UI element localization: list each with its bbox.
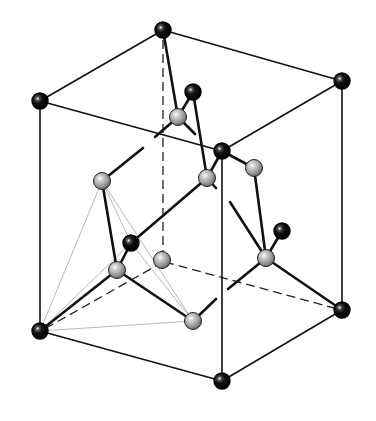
interior-atom bbox=[199, 170, 216, 187]
face-center-atom bbox=[123, 235, 139, 251]
face-center-atom bbox=[185, 84, 201, 100]
corner-atom bbox=[32, 323, 48, 339]
interior-atom bbox=[170, 109, 187, 126]
interior-atom bbox=[109, 262, 126, 279]
hidden-edges bbox=[48, 40, 334, 327]
interior-atom bbox=[94, 173, 111, 190]
interior-atom bbox=[246, 160, 263, 177]
corner-atom bbox=[32, 93, 48, 109]
interior-atom bbox=[185, 313, 202, 330]
interior-atoms bbox=[94, 109, 275, 330]
face-center-atom bbox=[274, 223, 290, 239]
corner-atom bbox=[214, 373, 230, 389]
corner-atom bbox=[214, 143, 230, 159]
interior-atom bbox=[154, 252, 171, 269]
corner-atom bbox=[155, 22, 171, 38]
diamond-cubic-unit-cell bbox=[0, 0, 376, 421]
interior-atom bbox=[258, 250, 275, 267]
corner-atom bbox=[334, 73, 350, 89]
corner-atom bbox=[334, 302, 350, 318]
